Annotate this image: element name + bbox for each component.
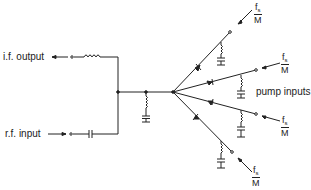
if-output-path (52, 55, 118, 134)
circuit-diagram: i.f. output r.f. input pump inputs fs M … (0, 0, 311, 190)
pump-freq-label-3: fs M (281, 116, 289, 138)
pump-freq-label-2: fs M (281, 53, 289, 75)
pump-freq-label-4: fs M (252, 166, 260, 188)
rf-input-path (48, 130, 118, 138)
pump-branch-3 (173, 92, 280, 137)
pump-freq-label-1: fs M (254, 3, 262, 25)
bus-idler-tank (142, 92, 150, 122)
rf-input-label: r.f. input (5, 129, 41, 139)
if-output-label: i.f. output (3, 52, 44, 62)
pump-inputs-label: pump inputs (256, 87, 310, 97)
